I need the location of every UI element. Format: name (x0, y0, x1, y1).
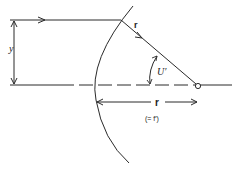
radius-note: (= f′) (145, 115, 159, 123)
angle-label: U′ (157, 66, 167, 77)
ray-label: r (134, 20, 138, 30)
radius-dimension (97, 99, 197, 105)
radius-label: r (155, 97, 159, 108)
angle-arc (147, 56, 157, 84)
focal-point-marker (195, 83, 200, 88)
height-label: y (8, 43, 14, 54)
incident-ray (10, 17, 121, 23)
mirror-diagram: r y U′ r (= f′) (0, 0, 240, 173)
